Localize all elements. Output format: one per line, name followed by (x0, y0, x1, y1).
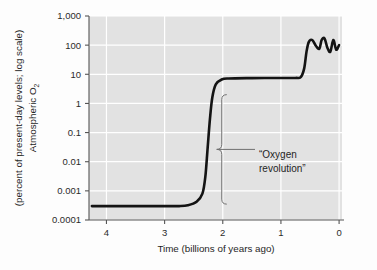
x-axis-ticks (106, 220, 339, 224)
y-tick-label: 0.001 (57, 185, 81, 196)
x-axis-tick-labels: 43210 (104, 227, 342, 238)
y-tick-label: 0.01 (63, 156, 82, 167)
x-axis-title: Time (billions of years ago) (157, 243, 274, 254)
y-tick-label: 0.0001 (52, 214, 81, 225)
y-axis-title-subscript: 2 (33, 83, 40, 87)
plot-background (89, 16, 342, 220)
y-tick-label: 1,000 (57, 10, 81, 21)
y-axis-title-line1: Atmospheric O2 (27, 83, 40, 152)
oxygen-revolution-label-line2: revolution” (259, 163, 306, 174)
y-tick-label: 1 (76, 98, 81, 109)
oxygen-history-chart: 1,0001001010.10.010.0010.0001 43210 “Oxy… (0, 0, 377, 270)
y-axis-title-main: Atmospheric O (27, 87, 38, 152)
x-tick-label: 4 (104, 227, 109, 238)
x-tick-label: 2 (220, 227, 225, 238)
y-axis-ticks (85, 16, 89, 220)
oxygen-revolution-label-line1: “Oxygen (259, 149, 297, 160)
y-tick-label: 0.1 (68, 127, 81, 138)
y-axis-tick-labels: 1,0001001010.10.010.0010.0001 (52, 10, 81, 225)
y-tick-label: 10 (70, 69, 81, 80)
x-tick-label: 0 (336, 227, 341, 238)
y-tick-label: 100 (65, 40, 81, 51)
y-axis-title-line2: (percent of present-day levels; log scal… (13, 30, 24, 206)
x-tick-label: 3 (162, 227, 167, 238)
x-tick-label: 1 (278, 227, 283, 238)
figure-container: 1,0001001010.10.010.0010.0001 43210 “Oxy… (0, 0, 377, 270)
